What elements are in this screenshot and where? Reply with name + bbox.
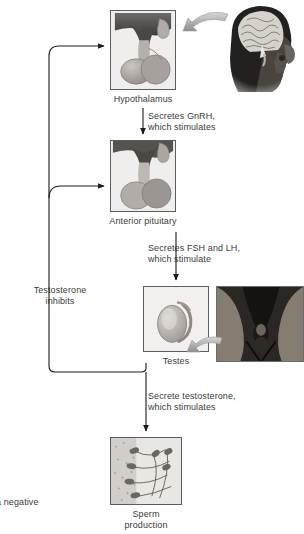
head-brain-photo: [216, 0, 304, 95]
label-hypothalamus: Hypothalamus: [110, 94, 176, 105]
panel-testes: [143, 286, 209, 352]
panel-anterior-pituitary: [110, 140, 176, 212]
arrow-label-gnrh-line2: which stimulates: [148, 122, 216, 133]
pelvis-photo: [217, 287, 303, 361]
testis-illustration: [144, 287, 208, 351]
photo-head-brain: [216, 0, 304, 95]
label-anterior-pituitary: Anterior pituitary: [98, 216, 188, 227]
caption-fragment: a negative: [0, 497, 39, 508]
arrow-label-testosterone-line2: which stimulates: [148, 402, 216, 413]
pituitary-illustration: [111, 141, 175, 211]
figure-root: Hypothalamus Anterior pituitary: [0, 0, 304, 534]
photo-pelvis: [216, 286, 304, 362]
feedback-branch-to-pituitary: [49, 186, 104, 198]
panel-hypothalamus: [110, 10, 176, 90]
hypothalamus-illustration: [111, 11, 175, 89]
label-sperm-line1: Sperm: [110, 509, 182, 520]
sperm-micrograph: [111, 438, 181, 504]
label-sperm-line2: production: [110, 520, 182, 531]
arrow-label-gnrh-line1: Secretes GnRH,: [148, 111, 215, 122]
panel-sperm: [110, 437, 182, 505]
label-testes: Testes: [143, 356, 209, 367]
arrow-label-fshlh-line2: which stimulate: [148, 254, 211, 265]
arrow-label-fshlh-line1: Secretes FSH and LH,: [148, 243, 240, 254]
feedback-label-line1: Testosterone: [8, 285, 112, 296]
feedback-label-line2: inhibits: [8, 296, 112, 307]
arrow-label-testosterone-line1: Secrete testosterone,: [148, 391, 236, 402]
